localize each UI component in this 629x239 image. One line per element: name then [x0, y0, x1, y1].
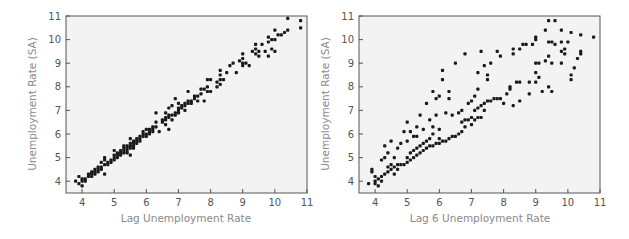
data-point	[193, 95, 196, 98]
data-point	[579, 33, 582, 36]
data-point	[406, 140, 409, 143]
data-point	[386, 165, 389, 168]
data-point	[270, 47, 273, 50]
data-point	[438, 95, 441, 98]
data-point	[151, 130, 154, 133]
data-point	[154, 125, 157, 128]
data-point	[241, 64, 244, 67]
y-tick-label: 4	[348, 176, 354, 187]
data-point	[228, 64, 231, 67]
data-point	[77, 182, 80, 185]
data-point	[431, 125, 434, 128]
data-point	[254, 52, 257, 55]
data-point	[489, 99, 492, 102]
data-point	[113, 154, 116, 157]
data-point	[183, 109, 186, 112]
data-point	[441, 140, 444, 143]
data-point	[473, 95, 476, 98]
data-point	[209, 78, 212, 81]
data-point	[457, 132, 460, 135]
x-axis-label: Lag 6 Unemployment Rate	[410, 212, 550, 224]
x-tick-label: 10	[561, 197, 574, 208]
y-tick-label: 7	[55, 105, 61, 116]
data-point	[441, 69, 444, 72]
data-point	[537, 62, 540, 65]
data-point	[512, 52, 515, 55]
data-point	[74, 180, 77, 183]
data-point	[525, 43, 528, 46]
data-point	[180, 104, 183, 107]
data-point	[122, 151, 125, 154]
data-point	[438, 137, 441, 140]
x-tick-label: 5	[111, 197, 117, 208]
data-point	[390, 163, 393, 166]
data-point	[367, 182, 370, 185]
data-point	[103, 173, 106, 176]
y-tick-label: 8	[348, 81, 354, 92]
y-axis-label: Unemployment Rate (SA)	[319, 37, 331, 171]
data-point	[541, 90, 544, 93]
data-point	[129, 147, 132, 150]
data-point	[419, 114, 422, 117]
data-point	[167, 128, 170, 131]
data-point	[203, 88, 206, 91]
data-point	[512, 104, 515, 107]
data-point	[390, 140, 393, 143]
data-point	[129, 142, 132, 145]
data-point	[444, 111, 447, 114]
data-point	[154, 121, 157, 124]
data-point	[412, 135, 415, 138]
data-point	[393, 165, 396, 168]
data-point	[508, 85, 511, 88]
data-point	[547, 85, 550, 88]
data-point	[463, 118, 466, 121]
data-point	[486, 99, 489, 102]
data-point	[254, 43, 257, 46]
data-point	[460, 109, 463, 112]
data-point	[467, 118, 470, 121]
data-point	[579, 50, 582, 53]
data-point	[100, 161, 103, 164]
data-point	[553, 43, 556, 46]
data-point	[90, 170, 93, 173]
data-point	[380, 158, 383, 161]
data-point	[283, 31, 286, 34]
data-point	[273, 38, 276, 41]
data-point	[103, 156, 106, 159]
data-point	[393, 173, 396, 176]
data-point	[399, 163, 402, 166]
data-point	[547, 19, 550, 22]
data-point	[260, 43, 263, 46]
data-point	[113, 149, 116, 152]
data-point	[286, 29, 289, 32]
data-point	[428, 118, 431, 121]
data-point	[396, 168, 399, 171]
data-point	[470, 99, 473, 102]
data-point	[170, 118, 173, 121]
data-point	[97, 170, 100, 173]
data-point	[454, 135, 457, 138]
data-point	[415, 135, 418, 138]
data-point	[592, 36, 595, 39]
data-point	[550, 90, 553, 93]
data-point	[164, 111, 167, 114]
data-point	[547, 40, 550, 43]
data-point	[277, 33, 280, 36]
x-tick-label: 4	[79, 197, 85, 208]
data-point	[113, 158, 116, 161]
data-point	[496, 50, 499, 53]
data-point	[244, 62, 247, 65]
data-point	[267, 36, 270, 39]
data-point	[174, 97, 177, 100]
data-point	[215, 81, 218, 84]
y-tick-label: 10	[48, 34, 61, 45]
data-point	[534, 36, 537, 39]
data-point	[406, 161, 409, 164]
data-point	[145, 135, 148, 138]
data-point	[576, 57, 579, 60]
data-point	[196, 99, 199, 102]
data-point	[135, 137, 138, 140]
data-point	[422, 149, 425, 152]
data-point	[447, 137, 450, 140]
data-point	[483, 64, 486, 67]
